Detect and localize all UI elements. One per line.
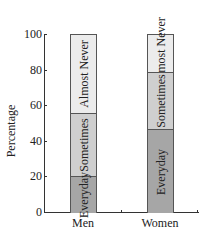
y-tick-label-60: 60 — [30, 99, 42, 111]
x-tick-label-men: Men — [58, 216, 108, 231]
y-tick-label-0: 0 — [36, 206, 42, 218]
y-tick-100 — [44, 34, 47, 35]
y-tick-label-100: 100 — [24, 28, 42, 40]
x-tick-label-women: Women — [135, 216, 185, 231]
segment-men-almost-never: Almost Never — [71, 35, 96, 113]
segment-men-everyday: Everyday — [71, 176, 96, 213]
y-axis-line — [44, 34, 45, 213]
y-tick-20 — [44, 176, 47, 177]
segment-women-almost-never: Almost Never — [148, 35, 173, 72]
y-tick-40 — [44, 141, 47, 142]
y-tick-0 — [44, 212, 47, 213]
stacked-bar-chart: Percentage 0 20 40 60 80 100 Almost Neve… — [0, 0, 199, 234]
y-axis-label: Percentage — [3, 96, 19, 166]
segment-label: Everyday — [153, 149, 168, 195]
y-tick-label-80: 80 — [30, 64, 42, 76]
y-tick-label-40: 40 — [30, 135, 42, 147]
segment-label: Sometimes — [153, 74, 168, 127]
bar-men: Almost Never Sometimes Everyday — [70, 34, 97, 213]
segment-label: Almost Never — [76, 40, 91, 108]
y-tick-80 — [44, 70, 47, 71]
segment-women-everyday: Everyday — [148, 129, 173, 213]
segment-men-sometimes: Sometimes — [71, 113, 96, 176]
x-tick-mid — [121, 210, 122, 213]
segment-label: Sometimes — [76, 118, 91, 171]
segment-label: Everyday — [76, 172, 91, 218]
x-tick-end — [197, 210, 198, 213]
segment-women-sometimes: Sometimes — [148, 72, 173, 129]
y-tick-60 — [44, 105, 47, 106]
y-tick-label-20: 20 — [30, 170, 42, 182]
y-axis-label-text: Percentage — [4, 105, 19, 158]
bar-women: Almost Never Sometimes Everyday — [147, 34, 174, 213]
